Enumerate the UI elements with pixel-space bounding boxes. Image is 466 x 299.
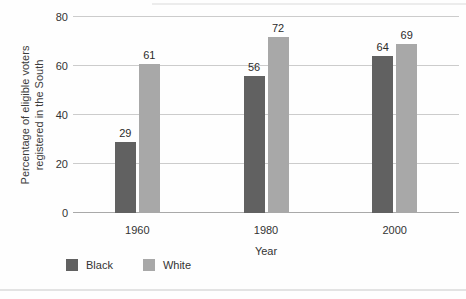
bar-value-label: 69 — [401, 29, 413, 41]
bar-white-1980 — [268, 37, 289, 213]
bar-wrap: 29 — [115, 17, 136, 213]
legend-item-white: White — [143, 259, 191, 271]
bar-value-label: 64 — [377, 41, 389, 53]
bar-value-label: 56 — [248, 61, 260, 73]
bar-value-label: 72 — [272, 22, 284, 34]
bar-group-slot: 6469 — [330, 17, 459, 213]
legend-swatch-white — [143, 259, 155, 271]
y-tick-label: 0 — [62, 208, 68, 219]
scan-artifact-line-top — [152, 3, 466, 5]
bar-wrap: 72 — [268, 17, 289, 213]
y-axis-tick-labels: 020406080 — [38, 17, 68, 213]
x-tick-label: 1980 — [254, 224, 278, 236]
legend: BlackWhite — [66, 259, 191, 271]
y-tick-label: 80 — [56, 12, 68, 23]
plot-area: 296156726469 — [73, 17, 459, 213]
bar-group-1960: 2961 — [115, 17, 160, 213]
x-tick-label: 1960 — [125, 224, 149, 236]
bar-white-1960 — [139, 64, 160, 213]
bar-wrap: 56 — [244, 17, 265, 213]
bar-black-1980 — [244, 76, 265, 213]
y-tick-label: 20 — [56, 159, 68, 170]
bar-group-2000: 6469 — [372, 17, 417, 213]
y-tick-label: 60 — [56, 61, 68, 72]
x-axis-tick-labels: 196019802000 — [73, 220, 459, 238]
bar-white-2000 — [396, 44, 417, 213]
bar-black-1960 — [115, 142, 136, 213]
chart-figure: Percentage of eligible voters registered… — [0, 0, 466, 299]
bar-group-1980: 5672 — [244, 17, 289, 213]
x-tick-label: 2000 — [382, 224, 406, 236]
y-tick-label: 40 — [56, 110, 68, 121]
bar-black-2000 — [372, 56, 393, 213]
legend-item-black: Black — [66, 259, 113, 271]
x-tick-slot: 1960 — [73, 220, 202, 238]
scan-artifact-line-bottom — [0, 289, 466, 291]
bar-wrap: 61 — [139, 17, 160, 213]
bar-wrap: 64 — [372, 17, 393, 213]
legend-swatch-black — [66, 259, 78, 271]
y-axis-title-line1: Percentage of eligible voters — [19, 17, 33, 213]
x-axis-title: Year — [73, 245, 459, 257]
bar-value-label: 61 — [143, 49, 155, 61]
bar-groups: 296156726469 — [73, 17, 459, 213]
bar-value-label: 29 — [119, 127, 131, 139]
x-tick-slot: 2000 — [330, 220, 459, 238]
x-tick-slot: 1980 — [202, 220, 331, 238]
bar-group-slot: 2961 — [73, 17, 202, 213]
bar-wrap: 69 — [396, 17, 417, 213]
legend-label-black: Black — [86, 259, 113, 271]
legend-label-white: White — [163, 259, 191, 271]
bar-group-slot: 5672 — [202, 17, 331, 213]
